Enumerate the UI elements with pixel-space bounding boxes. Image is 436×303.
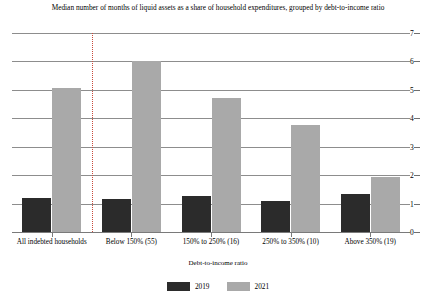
plot-area bbox=[12, 33, 410, 232]
x-axis-category-label: All indebted households bbox=[17, 238, 87, 246]
legend-swatch-icon bbox=[167, 282, 190, 291]
y-axis-label: 3 bbox=[410, 142, 432, 151]
bar-2019-1 bbox=[102, 199, 131, 232]
x-axis-category-label: Below 150% (55) bbox=[106, 238, 157, 246]
legend-label: 2019 bbox=[195, 282, 210, 291]
x-axis-title: Debt-to-income ratio bbox=[0, 259, 436, 267]
bar-2021-3 bbox=[291, 125, 320, 232]
bar-2019-3 bbox=[261, 201, 290, 232]
x-axis-category-label: Above 350% (19) bbox=[344, 238, 396, 246]
chart-title: Median number of months of liquid assets… bbox=[0, 3, 436, 12]
x-axis-tick-1 bbox=[131, 233, 132, 237]
gridline-7 bbox=[12, 33, 410, 34]
legend-item-2021[interactable]: 2021 bbox=[227, 282, 270, 291]
y-axis-label: 7 bbox=[410, 29, 432, 38]
bar-2019-0 bbox=[22, 198, 51, 232]
chart-legend: 20192021 bbox=[0, 282, 436, 291]
y-axis-label: 1 bbox=[410, 199, 432, 208]
x-axis-tick-4 bbox=[370, 233, 371, 237]
bar-2021-2 bbox=[212, 98, 241, 232]
bar-2019-2 bbox=[182, 196, 211, 232]
vertical-dotted-divider bbox=[92, 33, 93, 232]
y-axis-label: 6 bbox=[410, 57, 432, 66]
bar-2021-0 bbox=[52, 88, 81, 232]
y-axis-label: 2 bbox=[410, 171, 432, 180]
bar-2021-4 bbox=[371, 177, 400, 232]
bar-2021-1 bbox=[132, 61, 161, 232]
legend-item-2019[interactable]: 2019 bbox=[167, 282, 210, 291]
chart-container: Median number of months of liquid assets… bbox=[0, 0, 436, 303]
x-axis-category-label: 250% to 350% (10) bbox=[262, 238, 319, 246]
legend-swatch-icon bbox=[227, 282, 250, 291]
bar-2019-4 bbox=[341, 194, 370, 232]
y-axis-label: 4 bbox=[410, 114, 432, 123]
x-axis-tick-2 bbox=[211, 233, 212, 237]
x-axis-category-label: 150% to 250% (16) bbox=[183, 238, 240, 246]
y-axis-label: 0 bbox=[410, 228, 432, 237]
legend-label: 2021 bbox=[255, 282, 270, 291]
y-axis-label: 5 bbox=[410, 85, 432, 94]
x-axis-tick-3 bbox=[291, 233, 292, 237]
gridline-6 bbox=[12, 61, 410, 62]
x-axis-tick-0 bbox=[52, 233, 53, 237]
